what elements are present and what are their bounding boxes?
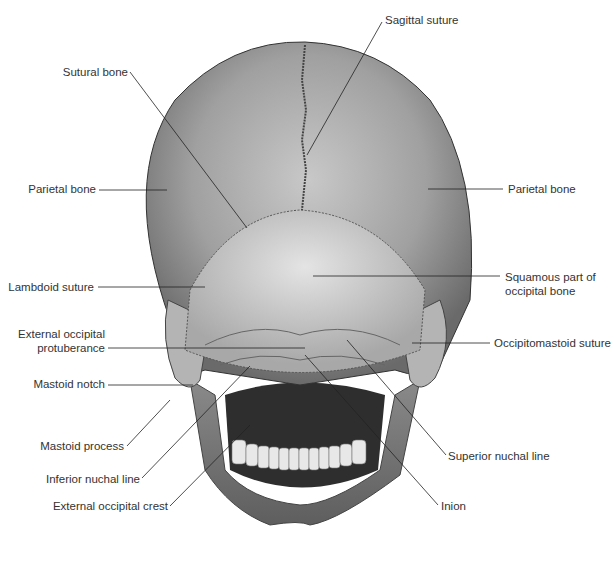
label-external-occipital-protuberance: External occipital: [0, 327, 105, 341]
label-external-occipital-protuberance-2: protuberance: [0, 341, 105, 355]
label-squamous-part-2: occipital bone: [505, 284, 575, 298]
label-external-occipital-crest: External occipital crest: [0, 499, 168, 513]
label-inferior-nuchal-line: Inferior nuchal line: [0, 472, 140, 486]
label-inion: Inion: [441, 499, 466, 513]
label-lambdoid-suture: Lambdoid suture: [0, 280, 94, 294]
label-sutural-bone: Sutural bone: [40, 65, 128, 79]
label-mastoid-notch: Mastoid notch: [0, 377, 105, 391]
label-superior-nuchal-line: Superior nuchal line: [448, 449, 550, 463]
label-occipitomastoid-suture: Occipitomastoid suture: [494, 336, 611, 350]
label-squamous-part: Squamous part of: [505, 270, 596, 284]
label-mastoid-process: Mastoid process: [0, 439, 124, 453]
label-sagittal-suture: Sagittal suture: [385, 13, 459, 27]
label-parietal-bone-right: Parietal bone: [508, 182, 576, 196]
label-parietal-bone-left: Parietal bone: [10, 182, 96, 196]
